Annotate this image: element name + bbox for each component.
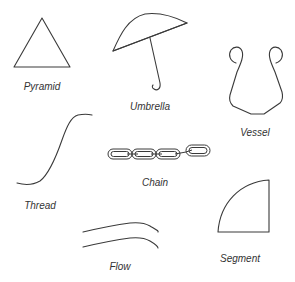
- quarter-circle-icon: [0, 0, 295, 282]
- shapes-diagram: Pyramid Umbrella Vessel Thread Chain: [0, 0, 295, 282]
- segment-label: Segment: [220, 254, 260, 264]
